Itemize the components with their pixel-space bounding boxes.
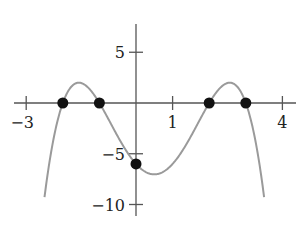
y-tick-label: −5 <box>101 145 125 164</box>
x-tick-label: −3 <box>10 113 34 132</box>
data-point <box>57 98 68 109</box>
axes <box>14 24 296 216</box>
data-point <box>94 98 105 109</box>
y-tick-label: −10 <box>91 196 125 215</box>
data-point <box>204 98 215 109</box>
data-point <box>240 98 251 109</box>
y-tick-label: 5 <box>115 43 125 62</box>
polynomial-chart: −3145−5−10 <box>0 0 299 229</box>
x-tick-label: 4 <box>277 113 287 132</box>
data-point <box>131 158 142 169</box>
data-points <box>57 98 251 170</box>
x-tick-label: 1 <box>168 113 178 132</box>
curve-line <box>45 83 265 198</box>
tick-labels: −3145−5−10 <box>10 43 287 214</box>
